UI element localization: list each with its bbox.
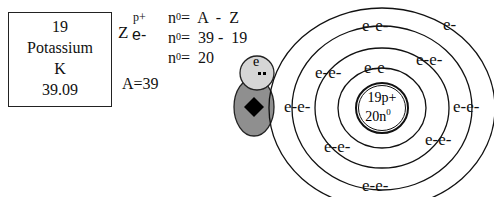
nucleus-protons: 19p+ [368, 90, 397, 105]
atom-diagram: e 19p+ 20n0 e-e- e-e- e-e- e-e- e-e- e-e… [0, 0, 494, 197]
svg-text:e-: e- [443, 15, 457, 34]
svg-text:e-e-: e-e- [364, 58, 391, 77]
nucleus-neutrons: 20n0 [365, 107, 391, 124]
svg-text:e-e-: e-e- [416, 50, 443, 69]
svg-text:e-e-: e-e- [362, 16, 389, 35]
svg-text:e-e-: e-e- [453, 97, 480, 116]
svg-text:e-e-: e-e- [362, 176, 389, 195]
shell-3 [292, 26, 472, 190]
svg-text:e-e-: e-e- [315, 63, 342, 82]
svg-text:e-e-: e-e- [425, 130, 452, 149]
shell-1 [338, 68, 426, 148]
svg-text:e-e-: e-e- [284, 97, 311, 116]
svg-text:e-e-: e-e- [324, 137, 351, 156]
svg-text:e: e [253, 54, 259, 69]
